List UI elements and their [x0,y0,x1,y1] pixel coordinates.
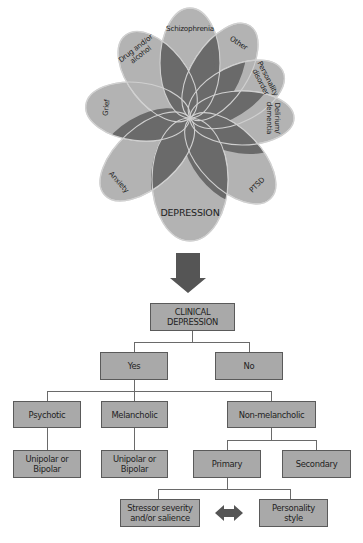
box-personality-style: Personality style [259,499,328,527]
connector [227,440,228,450]
box-primary: Primary [193,450,261,478]
connector [134,428,135,450]
connector [158,489,159,499]
double-arrow-icon [215,505,243,521]
down-arrow-layer [0,0,363,300]
connector [290,489,291,499]
box-clinical-depression: CLINICAL DEPRESSION [150,303,235,331]
connector [134,342,135,352]
down-arrow-icon [170,253,206,293]
box-non-melancholic: Non-melancholic [227,401,316,428]
box-unipolar-bipolar-melancholic: Unipolar or Bipolar [101,450,168,478]
box-secondary: Secondary [282,450,351,478]
box-stressor-severity: Stressor severity and/or salience [120,499,200,527]
connector [227,478,228,489]
connector [134,380,135,391]
box-psychotic: Psychotic [13,401,81,428]
box-yes: Yes [100,352,168,380]
connector [158,489,291,490]
connector [316,440,317,450]
connector [271,391,272,401]
connector [134,391,135,401]
connector [249,342,250,352]
connector [47,391,48,401]
box-melancholic: Melancholic [101,401,168,428]
connector [47,391,272,392]
connector [192,331,193,342]
connector [271,428,272,440]
connector [227,440,317,441]
connector [47,428,48,450]
diagram: SchizophreniaOtherPersonalitydisorderDel… [0,0,363,543]
box-no: No [215,352,283,380]
connector [134,342,250,343]
box-unipolar-bipolar-psychotic: Unipolar or Bipolar [13,450,81,478]
